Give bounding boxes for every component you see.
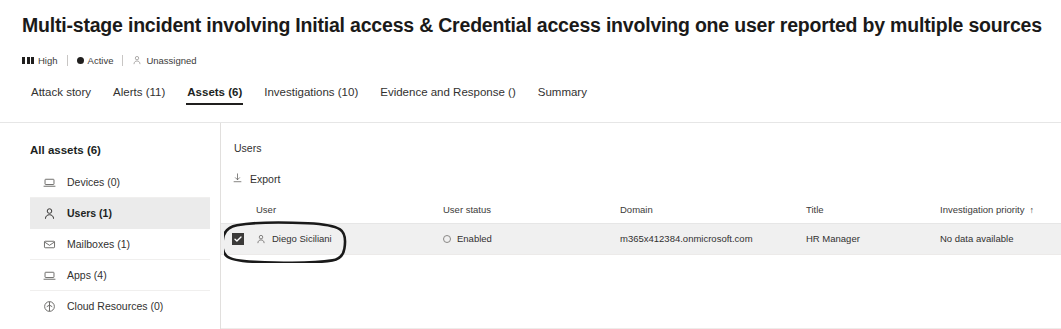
column-header-title[interactable]: Title (806, 204, 824, 215)
mailbox-icon (42, 237, 56, 251)
cell-domain: m365x412384.onmicrosoft.com (620, 233, 753, 244)
cell-investigation-priority: No data available (940, 233, 1013, 244)
row-select-checkbox[interactable] (232, 233, 244, 245)
status-ring-icon (443, 235, 451, 243)
cell-user[interactable]: Diego Siciliani (256, 233, 332, 244)
sort-ascending-icon: ↑ (1029, 205, 1034, 215)
badge-divider (67, 55, 68, 66)
cell-title: HR Manager (806, 233, 860, 244)
column-header-domain[interactable]: Domain (620, 204, 653, 215)
users-panel: Users Export User User status Domain Tit… (221, 123, 1061, 329)
sidebar-item-label: Cloud Resources (0) (67, 300, 163, 312)
incident-tabs: Attack story Alerts (11) Assets (6) Inve… (20, 84, 598, 112)
state-label: Active (88, 55, 114, 66)
incident-status-badges: High Active Unassigned (22, 52, 197, 68)
export-label: Export (250, 173, 280, 185)
users-table: User User status Domain Title Investigat… (221, 197, 1061, 255)
sidebar-item-label: Users (1) (67, 207, 112, 219)
export-button[interactable]: Export (232, 169, 286, 189)
column-header-investigation-priority[interactable]: Investigation priority↑ (940, 204, 1034, 215)
tab-investigations[interactable]: Investigations (10) (253, 84, 369, 107)
table-row[interactable]: Diego Siciliani Enabled m365x412384.onmi… (221, 224, 1061, 255)
sidebar-item-users[interactable]: Users (1) (30, 198, 210, 229)
cloud-resource-icon (42, 299, 56, 313)
sidebar-item-mailboxes[interactable]: Mailboxes (1) (30, 229, 210, 260)
tab-evidence-and-response[interactable]: Evidence and Response () (369, 84, 527, 107)
panel-title: Users (234, 142, 261, 154)
download-icon (232, 172, 243, 186)
sidebar-item-label: Mailboxes (1) (67, 238, 130, 250)
status-badge-severity: High (22, 52, 58, 68)
app-icon (42, 268, 56, 282)
sidebar-item-label: Devices (0) (67, 176, 120, 188)
assets-sidebar: All assets (6) Devices (0) Users (1) (0, 123, 220, 329)
panel-toolbar: Export (232, 169, 286, 189)
tab-attack-story[interactable]: Attack story (20, 84, 102, 107)
sidebar-heading: All assets (6) (30, 144, 101, 156)
badge-divider (122, 55, 123, 66)
cell-user-label: Diego Siciliani (272, 233, 332, 244)
person-icon (42, 206, 56, 220)
column-header-user-status[interactable]: User status (443, 204, 491, 215)
severity-bars-icon (22, 56, 34, 64)
sidebar-item-devices[interactable]: Devices (0) (30, 167, 210, 198)
tab-alerts[interactable]: Alerts (11) (102, 84, 176, 107)
assignment-label: Unassigned (146, 55, 196, 66)
table-header-row: User User status Domain Title Investigat… (221, 197, 1061, 224)
page-title: Multi-stage incident involving Initial a… (22, 14, 1042, 37)
column-header-user[interactable]: User (256, 204, 276, 215)
column-header-label: Investigation priority (940, 204, 1024, 215)
device-icon (42, 175, 56, 189)
sidebar-item-label: Apps (4) (67, 269, 107, 281)
sidebar-nav-list: Devices (0) Users (1) Mailboxes (1) (30, 167, 210, 321)
status-badge-assignment[interactable]: Unassigned (132, 52, 196, 68)
sidebar-item-cloud-resources[interactable]: Cloud Resources (0) (30, 291, 210, 321)
active-dot-icon (77, 57, 84, 64)
person-icon (132, 55, 142, 65)
cell-user-status: Enabled (443, 233, 492, 244)
status-badge-state: Active (77, 52, 114, 68)
tab-summary[interactable]: Summary (527, 84, 598, 107)
sidebar-item-apps[interactable]: Apps (4) (30, 260, 210, 291)
cell-user-status-label: Enabled (457, 233, 492, 244)
person-icon (256, 234, 266, 244)
tab-assets[interactable]: Assets (6) (176, 84, 253, 107)
severity-label: High (38, 55, 58, 66)
